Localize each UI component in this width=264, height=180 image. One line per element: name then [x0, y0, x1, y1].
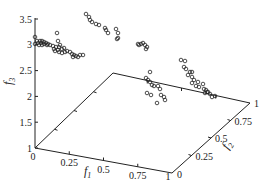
f2-ticks: 00.250.50.751	[177, 98, 259, 180]
scatter-3d-chart: 11.522.533.5 00.250.50.751 00.250.50.751…	[0, 0, 264, 180]
f2-tick-label: 0.25	[196, 151, 214, 162]
data-point	[183, 59, 187, 63]
data-point	[84, 12, 88, 16]
f2-tick	[189, 155, 192, 156]
f1-tick-label: 0.5	[97, 164, 110, 175]
data-point	[116, 31, 120, 35]
data-point	[148, 70, 152, 74]
data-point	[190, 81, 194, 85]
f2-tick-label: 1	[254, 98, 259, 109]
data-point	[56, 39, 60, 43]
plane-tick	[55, 129, 58, 130]
data-point	[179, 58, 183, 62]
data-point	[201, 82, 205, 86]
f3-tick-label: 2	[27, 91, 32, 102]
f3-tick-label: 1.5	[20, 117, 33, 128]
data-point	[55, 31, 59, 35]
data-point	[186, 73, 190, 77]
f3-tick-label: 3	[27, 39, 32, 50]
data-point	[155, 101, 159, 105]
plane-tick	[74, 111, 77, 112]
f2-tick	[208, 137, 211, 138]
f1-tick-label: 0.25	[61, 157, 79, 168]
data-point	[145, 91, 149, 95]
f2-tick-label: 0	[177, 169, 182, 180]
data-point	[149, 93, 153, 97]
scatter-points	[33, 12, 217, 105]
plane-tick	[94, 92, 97, 93]
f3-axis-title: f3	[1, 78, 17, 85]
f1-axis-title: f1	[84, 164, 91, 180]
data-point	[158, 87, 162, 91]
f1-ticks: 00.250.50.751	[31, 151, 171, 180]
f2-tick-label: 0.75	[235, 116, 253, 127]
f1-tick-label: 0.75	[129, 170, 147, 180]
f3-tick-label: 3.5	[20, 14, 33, 25]
f3-tick-label: 2.5	[20, 65, 33, 76]
data-point	[196, 80, 200, 84]
f2-tick	[228, 120, 231, 121]
data-point	[114, 27, 118, 31]
f1-tick-label: 0	[31, 151, 36, 162]
data-point	[106, 31, 110, 35]
f1-tick-label: 1	[166, 171, 171, 180]
